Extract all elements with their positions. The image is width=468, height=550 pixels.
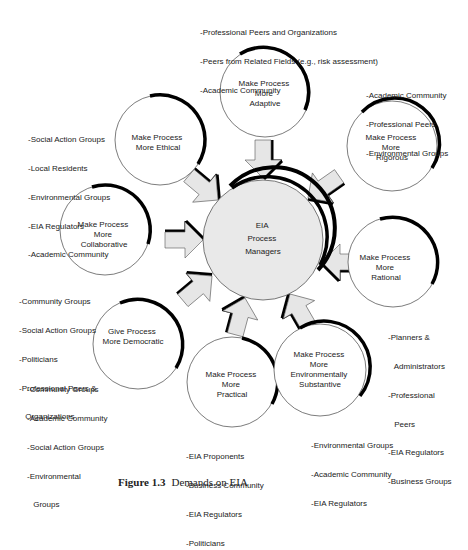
- node-environmental-label: Make Process More Environmentally Substa…: [290, 350, 349, 389]
- stakeholder-item: -Social Action Groups: [27, 443, 107, 453]
- stakeholder-item: -Politicians: [186, 539, 264, 549]
- stakeholder-item: -Social Action Groups: [28, 135, 110, 145]
- node-environmental: Make Process More Environmentally Substa…: [274, 321, 370, 416]
- stakeholder-item: -EIA Regulators: [186, 510, 264, 520]
- stakeholder-item: -EIA Regulators: [28, 222, 110, 232]
- stakeholder-item: -Academic Community: [28, 250, 110, 260]
- stakeholders-environmental: -Environmental Groups -Academic Communit…: [311, 422, 393, 518]
- stakeholder-item: Peers: [388, 420, 452, 430]
- node-democratic-label: Give Process More Democratic: [103, 327, 164, 346]
- stakeholders-adaptive: -Professional Peers and Organizations -P…: [200, 9, 378, 105]
- stakeholder-item: -Social Action Groups: [19, 326, 96, 336]
- stakeholder-item: -Academic Community: [200, 86, 378, 96]
- stakeholders-ethical: -Social Action Groups -Local Residents -…: [28, 116, 110, 270]
- stakeholder-item: Administrators: [388, 362, 452, 372]
- stakeholder-item: -Community Groups: [19, 297, 96, 307]
- stakeholder-item: -Planners &: [388, 333, 452, 343]
- stakeholders-practical: -EIA Proponents -Business Community -EIA…: [186, 433, 264, 550]
- figure-label: Figure 1.3: [118, 476, 165, 488]
- stakeholder-item: -Academic Community: [27, 414, 107, 424]
- stakeholder-item: Groups: [27, 500, 107, 510]
- stakeholder-item: -EIA Proponents: [186, 452, 264, 462]
- stakeholder-item: -EIA Regulators: [311, 499, 393, 509]
- node-ethical: Make Process More Ethical: [115, 95, 205, 185]
- stakeholders-rigorous: -Academic Community -Professional Peers …: [366, 72, 448, 168]
- stakeholder-item: -Peers from Related Fields (e.g., risk a…: [200, 57, 378, 67]
- stakeholder-item: -Professional: [388, 391, 452, 401]
- stakeholders-democratic: -Community Groups -Academic Community -S…: [27, 366, 107, 520]
- stakeholder-item: -Environmental: [27, 472, 107, 482]
- stakeholder-item: -Academic Community: [311, 470, 393, 480]
- node-rational: Make Process More Rational: [348, 217, 438, 307]
- stakeholder-item: -Environmental Groups: [28, 193, 110, 203]
- figure-caption-text: Demands on EIA: [171, 476, 247, 488]
- stakeholder-item: -Academic Community: [366, 91, 448, 101]
- stakeholder-item: -Professional Peers: [366, 120, 448, 130]
- node-practical: Make Process More Practical: [187, 337, 278, 427]
- figure-caption: Figure 1.3Demands on EIA: [118, 476, 248, 488]
- stakeholder-item: -Community Groups: [27, 385, 107, 395]
- stakeholder-item: -Professional Peers and Organizations: [200, 28, 378, 38]
- stakeholder-item: -Business Groups: [388, 477, 452, 487]
- stakeholder-item: -Environmental Groups: [311, 441, 393, 451]
- node-ethical-label: Make Process More Ethical: [132, 133, 185, 152]
- arrow-collaborative: [165, 221, 204, 258]
- stakeholder-item: -Environmental Groups: [366, 149, 448, 159]
- stakeholders-rational: -Planners & Administrators -Professional…: [388, 314, 452, 496]
- stakeholder-item: -EIA Regulators: [388, 448, 452, 458]
- stakeholder-item: -Politicians: [19, 355, 96, 365]
- stakeholder-item: -Local Residents: [28, 164, 110, 174]
